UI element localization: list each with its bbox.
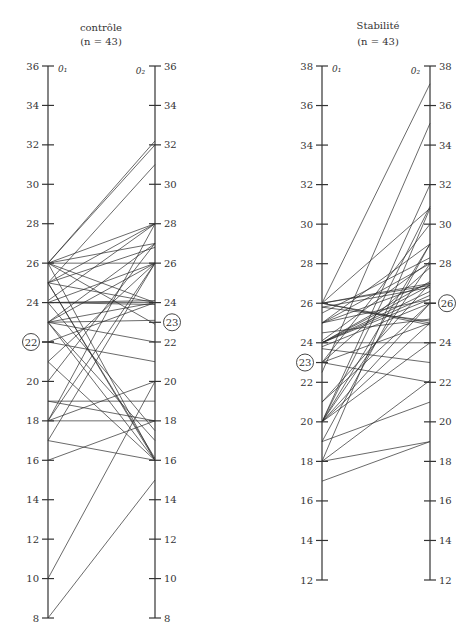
pair-line [322, 402, 430, 442]
tick-label-left: 14 [300, 535, 313, 546]
tick-label-left: 30 [300, 219, 313, 230]
tick-label-right: 18 [164, 415, 177, 426]
pair-line [322, 303, 430, 346]
tick-label-left: 22 [300, 377, 313, 388]
tick-label-left: 24 [26, 297, 39, 308]
tick-label-left: 30 [26, 179, 39, 190]
chart-stabilite: 1212141416161818202022222424262828303032… [297, 61, 456, 586]
tick-label-left: 36 [300, 100, 313, 111]
pair-line [322, 323, 430, 422]
tick-label-left: 18 [300, 456, 313, 467]
tick-label-right: 34 [164, 100, 177, 111]
tick-label-left: 8 [33, 613, 39, 624]
tick-label-left: 16 [300, 495, 313, 506]
pair-line [322, 343, 430, 422]
tick-label-left: 12 [26, 534, 39, 545]
pair-line [48, 322, 155, 342]
axis-name-o1: 0₁ [58, 64, 67, 74]
tick-label-left: 24 [300, 337, 313, 348]
tick-label-left: 26 [26, 258, 39, 269]
chart-subtitle-stabilite: (n = 43) [357, 36, 399, 47]
pair-line [322, 442, 430, 462]
pair-line [48, 263, 155, 440]
tick-label-right: 30 [164, 179, 177, 190]
mean-label-right: 26 [441, 298, 454, 309]
tick-label-right: 36 [439, 100, 452, 111]
tick-label-left: 18 [26, 415, 39, 426]
pair-lines [48, 141, 155, 618]
tick-label-right: 20 [439, 416, 452, 427]
chart-controle: 8810101212141416161818202022242426262828… [23, 61, 181, 624]
chart-subtitle-controle: (n = 43) [80, 36, 122, 47]
mean-label-left: 23 [299, 357, 312, 368]
paired-axis-charts: contrôle (n = 43) Stabilité (n = 43) 881… [0, 0, 475, 639]
axis-name-o2: 0₂ [136, 66, 146, 76]
pair-line [48, 421, 155, 460]
pair-line [48, 224, 155, 263]
mean-label-left: 22 [25, 337, 38, 348]
tick-label-left: 20 [26, 376, 39, 387]
tick-label-left: 32 [300, 179, 313, 190]
pair-line [48, 263, 155, 421]
tick-label-right: 12 [164, 534, 177, 545]
tick-label-right: 32 [439, 179, 452, 190]
pair-line [322, 258, 430, 313]
chart-title-stabilite: Stabilité [357, 20, 400, 31]
pair-line [322, 185, 430, 422]
mean-label-right: 23 [166, 317, 179, 328]
pair-line [48, 145, 155, 263]
tick-label-right: 16 [439, 495, 452, 506]
tick-label-right: 22 [439, 377, 452, 388]
tick-label-right: 18 [439, 456, 452, 467]
pair-line [48, 322, 155, 440]
tick-label-left: 34 [26, 100, 39, 111]
tick-label-right: 28 [439, 258, 452, 269]
tick-label-right: 22 [164, 337, 177, 348]
tick-label-left: 16 [26, 455, 39, 466]
tick-label-left: 28 [300, 258, 313, 269]
axis-name-o2: 0₂ [411, 66, 421, 76]
tick-label-right: 20 [164, 376, 177, 387]
pair-line [322, 281, 430, 342]
tick-label-left: 32 [26, 139, 39, 150]
pair-line [48, 141, 155, 263]
pair-line [322, 268, 430, 363]
tick-label-right: 14 [164, 494, 177, 505]
tick-label-right: 26 [164, 258, 177, 269]
tick-label-right: 12 [439, 575, 452, 586]
tick-label-left: 26 [300, 298, 313, 309]
tick-label-right: 32 [164, 139, 177, 150]
tick-label-left: 28 [26, 218, 39, 229]
pair-line [322, 442, 430, 482]
tick-label-left: 12 [300, 575, 313, 586]
tick-label-right: 30 [439, 219, 452, 230]
pair-line [48, 441, 155, 461]
pair-line [48, 224, 155, 301]
tick-label-right: 34 [439, 140, 452, 151]
tick-label-left: 38 [300, 61, 313, 72]
tick-label-right: 38 [439, 61, 452, 72]
tick-label-right: 24 [164, 297, 177, 308]
pair-line [322, 224, 430, 362]
tick-label-right: 8 [164, 613, 170, 624]
tick-label-right: 28 [164, 218, 177, 229]
tick-label-left: 10 [26, 573, 39, 584]
pair-line [48, 243, 155, 322]
pair-line [322, 380, 430, 461]
tick-label-right: 14 [439, 535, 452, 546]
pair-line [322, 303, 430, 402]
tick-label-right: 24 [439, 337, 452, 348]
tick-label-left: 20 [300, 416, 313, 427]
pair-lines [322, 84, 430, 481]
tick-label-right: 16 [164, 455, 177, 466]
tick-label-left: 14 [26, 494, 39, 505]
tick-label-right: 36 [164, 61, 177, 72]
axis-name-o1: 0₁ [332, 64, 341, 74]
tick-label-right: 10 [164, 573, 177, 584]
tick-label-left: 34 [300, 140, 313, 151]
pair-line [48, 243, 155, 381]
pair-line [48, 283, 155, 460]
chart-title-controle: contrôle [80, 22, 122, 33]
tick-label-left: 36 [26, 61, 39, 72]
pair-line [322, 349, 430, 363]
